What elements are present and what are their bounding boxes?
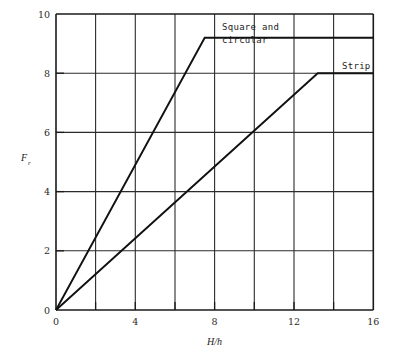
annotation-square-and-circular-line1: Square and bbox=[222, 22, 279, 32]
y-tick-label-0: 0 bbox=[44, 305, 50, 316]
line-chart: 0 2 4 6 8 10 0 4 8 12 16 Square and circ… bbox=[0, 0, 406, 359]
y-axis-title-base: F bbox=[20, 152, 28, 163]
annotation-square-and-circular-line2: circular bbox=[222, 35, 268, 45]
x-tick-label-0: 0 bbox=[53, 316, 59, 327]
x-tick-label-16: 16 bbox=[367, 316, 379, 327]
y-tick-label-10: 10 bbox=[38, 9, 50, 20]
x-tick-label-8: 8 bbox=[212, 316, 218, 327]
annotation-strip: Strip bbox=[342, 61, 371, 71]
y-tick-label-4: 4 bbox=[44, 186, 50, 197]
annotation-strip-label: Strip bbox=[342, 61, 371, 71]
y-tick-label-2: 2 bbox=[44, 245, 50, 256]
x-tick-label-12: 12 bbox=[288, 316, 300, 327]
y-tick-label-6: 6 bbox=[44, 127, 50, 138]
x-axis-title: H/h bbox=[206, 336, 222, 347]
chart-figure: 0 2 4 6 8 10 0 4 8 12 16 Square and circ… bbox=[0, 0, 406, 359]
x-tick-label-4: 4 bbox=[132, 316, 138, 327]
y-axis-title-subscript: r bbox=[28, 159, 31, 167]
y-tick-label-8: 8 bbox=[44, 68, 50, 79]
